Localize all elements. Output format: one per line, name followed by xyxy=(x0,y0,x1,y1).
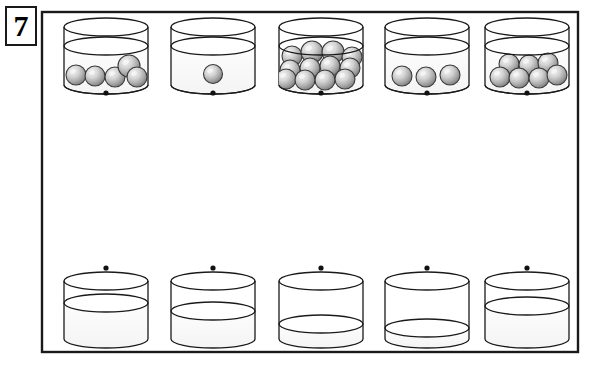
glass-air-space xyxy=(485,272,569,315)
marble-sphere xyxy=(547,65,567,85)
marble-sphere xyxy=(85,66,105,86)
answer-dot xyxy=(318,265,323,270)
top-cylinder-1 xyxy=(64,18,148,96)
marble xyxy=(529,68,549,88)
top-cylinder-3 xyxy=(276,18,363,96)
marble-sphere xyxy=(204,65,223,84)
marble xyxy=(547,65,567,85)
answer-dot xyxy=(524,265,529,270)
glass-air-space xyxy=(171,272,255,320)
marble xyxy=(335,69,355,89)
marble-sphere xyxy=(127,67,147,87)
bottom-cylinder-4 xyxy=(385,265,469,348)
cylinder-body xyxy=(171,272,255,348)
answer-dot xyxy=(524,90,529,95)
marble xyxy=(85,66,105,86)
question-number-label: 7 xyxy=(14,9,29,42)
marble xyxy=(127,67,147,87)
glass-air-space xyxy=(385,272,469,337)
bottom-row-cylinders xyxy=(64,265,569,348)
marble-sphere xyxy=(392,66,412,86)
top-cylinder-5 xyxy=(485,18,569,96)
marble xyxy=(392,66,412,86)
marble-sphere xyxy=(529,68,549,88)
marble xyxy=(315,70,335,90)
marble-sphere xyxy=(440,65,460,85)
answer-dot xyxy=(210,90,215,95)
top-row-cylinders xyxy=(64,18,569,96)
marble-sphere xyxy=(509,68,529,88)
bottom-cylinder-2 xyxy=(171,265,255,348)
marble xyxy=(66,65,86,85)
marble-sphere xyxy=(66,65,86,85)
marble xyxy=(440,65,460,85)
marble xyxy=(204,65,223,84)
top-cylinder-2 xyxy=(171,18,255,96)
glass-air-space xyxy=(64,272,148,312)
answer-dot xyxy=(210,265,215,270)
worksheet-canvas: 7 xyxy=(0,0,600,369)
bottom-cylinder-1 xyxy=(64,265,148,348)
marble-sphere xyxy=(295,70,315,90)
answer-dot xyxy=(424,265,429,270)
cylinder-body xyxy=(485,272,569,348)
bottom-cylinder-5 xyxy=(485,265,569,348)
marble-sphere xyxy=(315,70,335,90)
marble-sphere xyxy=(335,69,355,89)
marble xyxy=(416,67,436,87)
answer-dot xyxy=(318,90,323,95)
marble-sphere xyxy=(490,67,510,87)
marble-group xyxy=(392,65,460,87)
worksheet-page: 7 xyxy=(0,0,600,369)
marble-group xyxy=(204,65,223,84)
marble-sphere xyxy=(416,67,436,87)
cylinder-body xyxy=(279,272,363,348)
top-cylinder-4 xyxy=(385,18,469,96)
marble xyxy=(295,70,315,90)
marble-group xyxy=(276,41,362,90)
answer-dot xyxy=(103,90,108,95)
marble xyxy=(490,67,510,87)
answer-dot xyxy=(103,265,108,270)
answer-dot xyxy=(424,90,429,95)
glass-air-space xyxy=(279,272,363,333)
bottom-cylinder-3 xyxy=(279,265,363,348)
marble xyxy=(509,68,529,88)
question-number-box: 7 xyxy=(6,7,36,45)
